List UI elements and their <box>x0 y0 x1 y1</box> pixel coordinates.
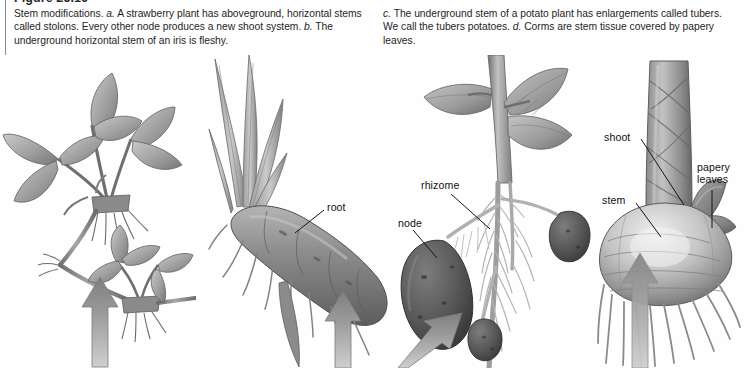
label-stem: stem <box>602 194 625 206</box>
figure-page: Figure 25.16 Stem modifications. a. A st… <box>0 0 746 368</box>
label-papery-leaves-line2: leaves <box>697 173 728 185</box>
illustration-strawberry-plant <box>0 55 196 368</box>
label-shoot: shoot <box>604 131 630 143</box>
label-root: root <box>327 201 346 213</box>
illustration-iris-rhizome <box>183 55 393 368</box>
label-rhizome: rhizome <box>421 179 459 191</box>
figure-caption-right: c. The underground stem of a potato plan… <box>383 7 733 47</box>
illustration-corm <box>588 55 746 368</box>
figure-caption-left: Stem modifications. a. A strawberry plan… <box>14 7 362 47</box>
figure-number: Figure 25.16 <box>14 0 88 5</box>
illustration-potato-plant <box>392 55 592 368</box>
label-papery-leaves-line1: papery <box>697 161 730 173</box>
label-node: node <box>398 217 422 229</box>
caption-rule <box>5 0 6 55</box>
label-papery-leaves: papery leaves <box>697 161 730 185</box>
